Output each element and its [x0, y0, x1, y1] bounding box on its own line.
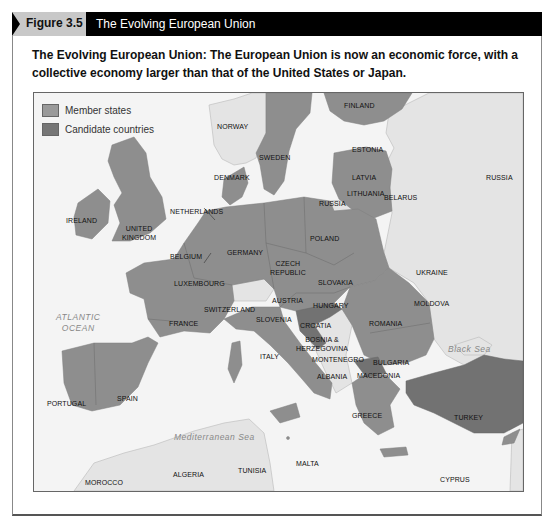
label-austria: AUSTRIA — [272, 296, 303, 305]
label-algeria: ALGERIA — [173, 470, 204, 479]
candidate-countries-swatch — [42, 123, 59, 136]
label-lithuania: LITHUANIA — [347, 189, 384, 198]
europe-map: Member states Candidate countries FINLAN… — [33, 92, 524, 492]
label-united-kingdom: UNITEDKINGDOM — [122, 224, 156, 242]
label-albania: ALBANIA — [317, 372, 347, 381]
label-turkey: TURKEY — [454, 413, 483, 422]
label-slovakia: SLOVAKIA — [318, 278, 353, 287]
figure-caption: The Evolving European Union: The Europea… — [32, 46, 527, 82]
legend-label: Candidate countries — [65, 124, 154, 135]
label-atlantic-ocean: ATLANTICOCEAN — [56, 312, 100, 334]
member-states-swatch — [42, 104, 59, 117]
label-greece: GREECE — [352, 411, 382, 420]
label-germany: GERMANY — [227, 248, 263, 257]
map-legend: Member states Candidate countries — [42, 101, 154, 139]
label-hungary: HUNGARY — [313, 301, 349, 310]
label-black-sea: Black Sea — [448, 344, 491, 355]
label-netherlands: NETHERLANDS — [170, 207, 223, 216]
label-portugal: PORTUGAL — [47, 399, 86, 408]
label-morocco: MOROCCO — [85, 478, 123, 487]
label-croatia: CROATIA — [300, 321, 331, 330]
label-russia-east: RUSSIA — [486, 173, 513, 182]
label-malta: MALTA — [296, 459, 319, 468]
label-mediterranean-sea: Mediterranean Sea — [174, 432, 255, 443]
legend-label: Member states — [65, 105, 131, 116]
figure-tab: Figure 3.5 — [12, 12, 86, 36]
label-bosnia-herzegovina: BOSNIA &HERZEGOVINA — [296, 335, 348, 353]
label-ireland: IRELAND — [66, 216, 97, 225]
label-tunisia: TUNISIA — [238, 466, 266, 475]
label-poland: POLAND — [310, 234, 339, 243]
label-latvia: LATVIA — [352, 173, 376, 182]
label-sweden: SWEDEN — [259, 153, 290, 162]
label-slovenia: SLOVENIA — [256, 315, 292, 324]
label-estonia: ESTONIA — [352, 145, 383, 154]
label-spain: SPAIN — [117, 394, 138, 403]
label-bulgaria: BULGARIA — [373, 358, 409, 367]
label-russia-kaliningrad: RUSSIA — [319, 199, 346, 208]
label-cyprus: CYPRUS — [440, 475, 470, 484]
label-romania: ROMANIA — [369, 319, 402, 328]
figure-title: The Evolving European Union — [96, 17, 255, 31]
figure-label: Figure 3.5 — [26, 16, 83, 30]
label-belgium: BELGIUM — [170, 252, 202, 261]
legend-item-candidate-countries: Candidate countries — [42, 120, 154, 139]
label-ukraine: UKRAINE — [416, 268, 448, 277]
label-montenegro: MONTENEGRO — [312, 355, 364, 364]
label-czech-republic: CZECHREPUBLIC — [270, 259, 306, 277]
label-france: FRANCE — [169, 319, 198, 328]
figure-header: Figure 3.5 The Evolving European Union — [12, 12, 542, 36]
label-italy: ITALY — [260, 352, 279, 361]
label-denmark: DENMARK — [214, 173, 250, 182]
label-moldova: MOLDOVA — [414, 299, 449, 308]
label-belarus: BELARUS — [384, 193, 417, 202]
label-finland: FINLAND — [344, 101, 375, 110]
label-luxembourg: LUXEMBOURG — [174, 279, 225, 288]
label-norway: NORWAY — [217, 122, 248, 131]
label-macedonia: MACEDONIA — [357, 371, 400, 380]
label-switzerland: SWITZERLAND — [204, 305, 255, 314]
legend-item-member-states: Member states — [42, 101, 154, 120]
